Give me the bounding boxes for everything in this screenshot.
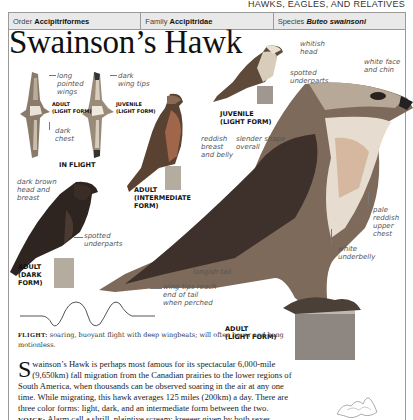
leader-line	[49, 75, 56, 76]
label-wing-tips-reach: wing tips reach end of tail when perched	[163, 283, 217, 307]
leader-line	[331, 229, 332, 246]
flight-heading: FLIGHT:	[18, 331, 48, 338]
label-long-pointed-wings: long pointed wings	[57, 72, 84, 96]
leader-line	[74, 237, 83, 238]
taxonomy-species: Species Buteo swainsoni	[274, 13, 405, 29]
label-slender-shape: slender shape overall	[236, 135, 285, 151]
species-label: Species	[278, 17, 305, 26]
flight-description: FLIGHT: soaring, buoyant flight with dee…	[18, 330, 318, 350]
label-white-underbelly: white underbelly	[338, 245, 375, 261]
label-whitish-head: whitish head	[300, 40, 325, 56]
form-label-dark: ADULT (DARK FORM)	[18, 263, 42, 287]
label-longish-tail: longish tail	[193, 268, 231, 276]
flight-adult-illustration	[18, 70, 52, 160]
section-title: HAWKS, EAGLES, AND RELATIVES	[248, 0, 405, 10]
voice-description: VOICE: Alarm call a shrill, plaintive sc…	[18, 414, 293, 420]
label-white-face-chin: white face and chin	[364, 58, 400, 74]
label-pale-reddish-upper-chest: pale reddish upper chest	[373, 206, 399, 238]
range-map-sketch	[333, 392, 383, 420]
label-dark-chest: dark chest	[55, 127, 74, 143]
form-label-flight-adult: ADULT (LIGHT FORM)	[52, 101, 92, 114]
flight-text: soaring, buoyant flight with deep wingbe…	[18, 331, 284, 349]
voice-text: Alarm call a shrill, plaintive scream; k…	[46, 414, 273, 420]
species-description: Swainson’s Hawk is perhaps most famous f…	[18, 359, 293, 420]
leader-line	[150, 288, 162, 289]
leader-line	[368, 192, 369, 206]
species-value: Buteo swainsoni	[306, 17, 366, 26]
label-dark-brown-head-breast: dark brown head and breast	[17, 178, 57, 202]
in-flight-caption: IN FLIGHT	[59, 161, 95, 169]
drop-cap: S	[18, 359, 31, 379]
flight-pattern-wave-icon	[20, 296, 155, 331]
leader-line	[110, 75, 117, 76]
description-text: wainson’s Hawk is perhaps most famous fo…	[18, 359, 292, 413]
voice-heading: VOICE:	[18, 416, 46, 420]
leader-line	[49, 122, 50, 130]
